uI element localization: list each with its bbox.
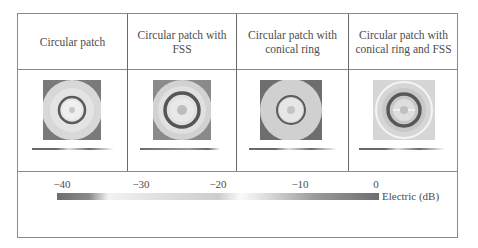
column-header: Circular patch with FSS bbox=[128, 14, 236, 69]
scale-bar bbox=[140, 148, 220, 150]
field-pattern-cell bbox=[128, 70, 236, 171]
field-pattern-circular-patch-conical-ring-fss bbox=[373, 80, 435, 140]
scale-bar bbox=[359, 148, 445, 150]
column-header: Circular patch bbox=[18, 14, 127, 69]
comparison-table: Circular patch Circular patch with FSS C… bbox=[17, 13, 458, 238]
field-pattern-cell bbox=[18, 70, 127, 171]
field-pattern-circular-patch bbox=[43, 80, 101, 140]
colorbar-tick: −40 bbox=[53, 178, 70, 190]
colorbar-tick: −30 bbox=[132, 178, 149, 190]
field-pattern-circular-patch-conical-ring bbox=[260, 80, 322, 140]
colorbar bbox=[57, 193, 379, 200]
scale-bar bbox=[32, 148, 114, 150]
row-divider bbox=[18, 171, 457, 172]
field-pattern-cell bbox=[349, 70, 458, 171]
colorbar-tick: −20 bbox=[209, 178, 226, 190]
colorbar-tick: 0 bbox=[373, 178, 379, 190]
field-pattern-circular-patch-fss bbox=[153, 80, 211, 140]
colorbar-label: Electric (dB) bbox=[382, 190, 439, 202]
column-header: Circular patch with conical ring and FSS bbox=[349, 14, 458, 69]
field-pattern-cell bbox=[237, 70, 348, 171]
scale-bar bbox=[249, 148, 337, 150]
column-header: Circular patch with conical ring bbox=[237, 14, 348, 69]
colorbar-tick: −10 bbox=[291, 178, 308, 190]
